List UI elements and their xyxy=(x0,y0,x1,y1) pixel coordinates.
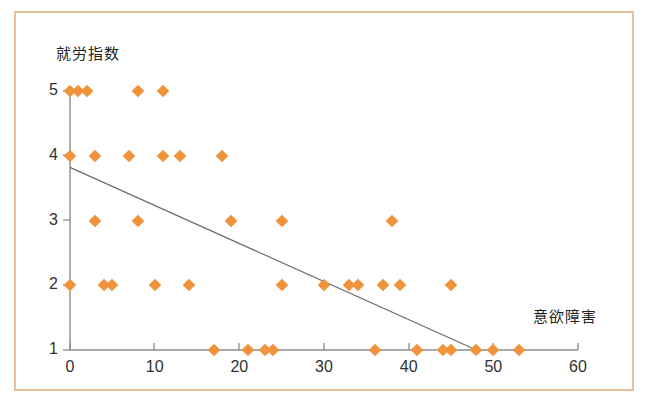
x-tick-label: 30 xyxy=(304,358,344,376)
axes xyxy=(70,91,578,350)
y-tick-label: 1 xyxy=(36,340,58,358)
x-axis-ticks xyxy=(70,343,578,350)
x-tick-label: 60 xyxy=(558,358,598,376)
scatter-chart-figure: 12345 0102030405060 就労指数 意欲障害 xyxy=(0,0,651,417)
y-tick-label: 4 xyxy=(36,146,58,164)
y-tick-label: 2 xyxy=(36,275,58,293)
x-tick-label: 0 xyxy=(50,358,90,376)
y-axis-title: 就労指数 xyxy=(56,42,120,63)
x-tick-label: 50 xyxy=(473,358,513,376)
x-tick-label: 10 xyxy=(135,358,175,376)
y-tick-label: 5 xyxy=(36,81,58,99)
y-tick-label: 3 xyxy=(36,211,58,229)
x-axis-title: 意欲障害 xyxy=(533,305,597,326)
x-tick-label: 20 xyxy=(219,358,259,376)
y-axis-ticks xyxy=(63,91,70,350)
regression-trendline xyxy=(70,167,476,350)
x-tick-label: 40 xyxy=(389,358,429,376)
